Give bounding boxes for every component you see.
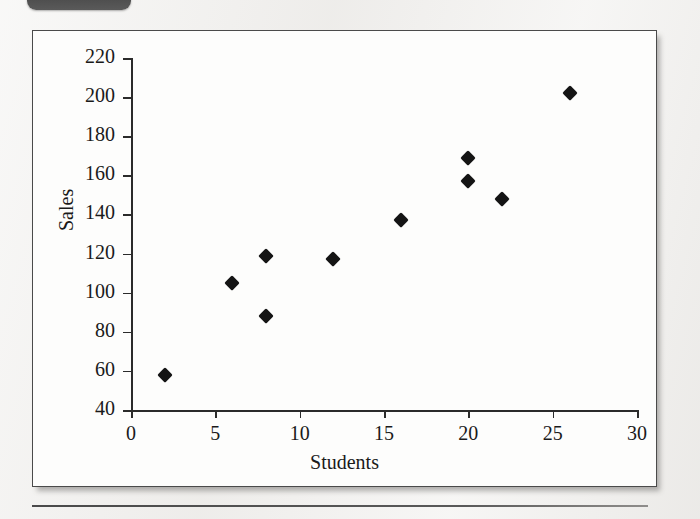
data-point (562, 85, 578, 101)
x-tick-label: 5 (190, 422, 240, 445)
y-tick-mark (123, 175, 131, 177)
y-tick-mark (123, 293, 131, 295)
data-point (326, 252, 342, 268)
x-tick-mark (637, 410, 639, 418)
y-tick-label: 160 (63, 162, 115, 185)
y-tick-label: 80 (63, 319, 115, 342)
data-point (393, 213, 409, 229)
data-point (461, 150, 477, 166)
x-tick-mark (553, 410, 555, 418)
figure-container: Sales Students 4060801001201401601802002… (32, 30, 657, 487)
y-tick-mark (123, 410, 131, 412)
data-point (461, 173, 477, 189)
x-tick-mark (468, 410, 470, 418)
data-point (258, 248, 274, 264)
y-tick-label: 40 (63, 397, 115, 420)
y-tick-mark (123, 254, 131, 256)
y-tick-label: 220 (63, 45, 115, 68)
y-axis-line (131, 58, 133, 410)
scatter-plot-surface: Sales Students 4060801001201401601802002… (33, 31, 656, 486)
x-tick-label: 15 (359, 422, 409, 445)
page-header-tab (27, 0, 131, 10)
y-tick-mark (123, 136, 131, 138)
y-tick-label: 60 (63, 358, 115, 381)
x-tick-mark (384, 410, 386, 418)
y-tick-mark (123, 332, 131, 334)
x-tick-label: 20 (443, 422, 493, 445)
x-tick-label: 30 (612, 422, 662, 445)
y-tick-mark (123, 97, 131, 99)
y-tick-mark (123, 58, 131, 60)
x-tick-mark (300, 410, 302, 418)
y-tick-label: 200 (63, 84, 115, 107)
x-axis-title: Students (33, 451, 656, 474)
x-tick-label: 25 (528, 422, 578, 445)
data-point (494, 191, 510, 207)
y-tick-label: 120 (63, 241, 115, 264)
data-point (157, 367, 173, 383)
y-tick-label: 140 (63, 201, 115, 224)
data-point (224, 275, 240, 291)
data-point (258, 308, 274, 324)
y-tick-mark (123, 371, 131, 373)
y-tick-label: 100 (63, 280, 115, 303)
x-tick-label: 10 (275, 422, 325, 445)
y-tick-label: 180 (63, 123, 115, 146)
x-tick-label: 0 (106, 422, 156, 445)
x-tick-mark (131, 410, 133, 418)
page-footer-rule (32, 505, 648, 507)
x-tick-mark (215, 410, 217, 418)
y-tick-mark (123, 214, 131, 216)
